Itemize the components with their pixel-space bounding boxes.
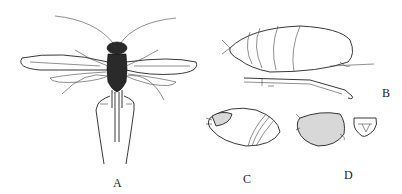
panel-b-abdomen-drawing [222, 26, 374, 99]
panel-d-abdomen-drawing [296, 113, 377, 146]
panel-label-b: B [382, 86, 390, 101]
panel-c-abdomen-drawing [206, 108, 280, 146]
panel-label-c: C [243, 172, 251, 187]
panel-label-d: D [344, 168, 353, 183]
panel-a-insect-drawing [21, 16, 197, 164]
panel-label-a: A [113, 176, 122, 191]
figure-canvas [0, 0, 402, 194]
